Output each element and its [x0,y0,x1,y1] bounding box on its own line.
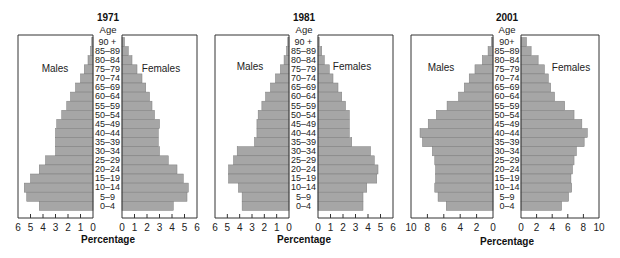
tick-label: 0 [490,222,496,233]
x-axis-label: Percentage [277,234,331,245]
male-bar [275,74,289,83]
male-bar [422,138,493,147]
male-bar [46,156,94,165]
female-bar [521,138,584,147]
male-bar [262,101,289,110]
females-label: Females [142,63,180,74]
tick-label: 8 [581,222,587,233]
male-bar [88,56,93,65]
tick-label: 4 [169,222,175,233]
female-bar [122,92,150,101]
female-bar [521,192,569,201]
female-bar [122,110,155,119]
x-axis-label: Percentage [81,234,135,245]
pyramid-2001: 2001 Age Males Females Percentage 90+85–… [405,12,605,247]
tick-label: 5 [225,222,231,233]
female-bar [122,83,146,92]
female-bar [122,138,158,147]
tick-label: 2 [534,222,540,233]
male-bar [57,119,93,128]
tick-label: 6 [15,222,21,233]
male-bar [436,110,493,119]
tick-label: 5 [182,222,188,233]
female-bar [318,156,374,165]
male-bar [284,56,289,65]
female-bar [122,156,168,165]
tick-label: 1 [132,222,138,233]
x-axis-ticks: 00224466881010 [405,214,605,233]
male-bar [81,74,94,83]
female-bar [521,65,544,74]
male-bar [238,183,289,192]
female-bar [521,110,574,119]
female-bar [122,56,132,65]
tick-label: 2 [65,222,71,233]
female-bar [318,119,349,128]
tick-label: 6 [194,222,200,233]
males-label: Males [237,61,264,72]
male-bar [438,192,493,201]
male-bar [229,174,289,183]
female-bar [122,183,188,192]
tick-label: 1 [274,222,280,233]
age-group-label: 0–4 [100,201,115,211]
male-bar [469,74,493,83]
female-bar [521,74,548,83]
males-label: Males [42,63,69,74]
tick-label: 0 [90,222,96,233]
female-bar [122,147,160,156]
tick-label: 6 [212,222,218,233]
tick-label: 6 [390,222,396,233]
female-bar [521,92,555,101]
age-group-label: 0–4 [499,201,514,211]
female-bar [122,165,177,174]
male-bar [271,83,290,92]
tick-label: 1 [78,222,84,233]
male-bar [71,92,94,101]
female-bar [521,83,551,92]
female-bar [521,129,587,138]
male-bar [242,201,289,210]
x-axis-label: Percentage [480,236,534,247]
male-bar [258,110,289,119]
female-bar [521,183,572,192]
female-bar [122,65,137,74]
females-label: Females [552,62,590,73]
tick-label: 6 [441,222,447,233]
male-bar [62,110,93,119]
female-bar [521,38,526,47]
male-bar [24,183,93,192]
female-bar [122,129,158,138]
chart-title: 1981 [293,12,316,23]
tick-label: 4 [40,222,46,233]
chart-title: 2001 [496,12,519,23]
tick-label: 4 [457,222,463,233]
male-bar [432,147,493,156]
male-bar [435,183,493,192]
male-bar [280,65,289,74]
male-bar [27,192,93,201]
tick-label: 2 [340,222,346,233]
female-bar [318,147,371,156]
tick-label: 6 [565,222,571,233]
male-bar [56,147,94,156]
tick-label: 2 [144,222,150,233]
male-bar [234,156,290,165]
females-label: Females [333,61,371,72]
age-labels: 90 +85–8980–8475–7970–7465–6960–6455–595… [291,37,316,211]
female-bar [122,47,128,56]
male-bar [266,92,289,101]
male-bar [488,47,493,56]
female-bar [318,165,378,174]
tick-label: 8 [425,222,431,233]
tick-label: 0 [286,222,292,233]
female-bar [318,138,352,147]
female-bar [318,129,349,138]
tick-label: 5 [378,222,384,233]
female-bar [318,192,363,201]
tick-label: 3 [353,222,359,233]
male-bar [435,156,493,165]
male-bar [436,165,493,174]
female-bar [122,101,152,110]
female-bar [318,174,377,183]
